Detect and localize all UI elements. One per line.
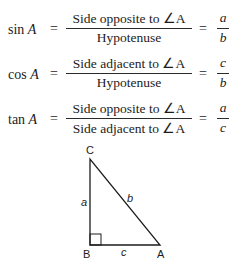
vertex-label-c: C [86, 144, 94, 156]
vertex-label-b: B [83, 248, 90, 260]
right-triangle-diagram: C B A a b c [0, 0, 243, 271]
side-label-b: b [127, 192, 133, 204]
triangle-shape [90, 159, 160, 245]
side-label-a: a [81, 196, 87, 208]
vertex-label-a: A [157, 248, 165, 260]
side-label-c: c [121, 246, 127, 258]
right-angle-marker [90, 234, 101, 245]
